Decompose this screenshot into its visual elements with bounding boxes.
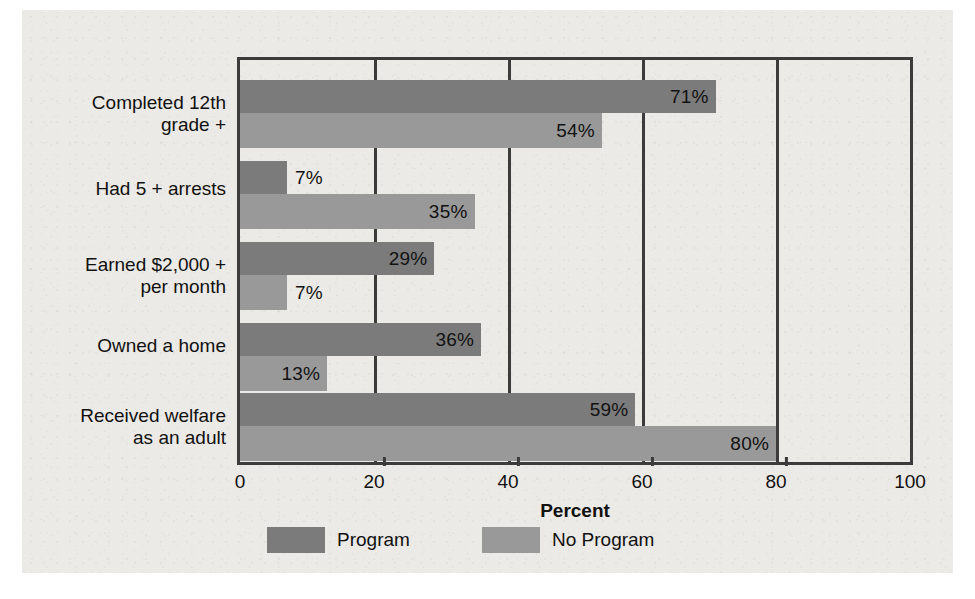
bar-value-label: 36% [436, 329, 475, 351]
xtick-40: 40 [497, 471, 518, 493]
gridline-80 [776, 60, 779, 462]
legend-label-program: Program [337, 529, 410, 551]
bar-program-3: 36% [240, 323, 481, 356]
xtick-100: 100 [894, 471, 926, 493]
chart-legend: Program No Program [237, 527, 913, 567]
category-label-1: Had 5 + arrests [0, 178, 226, 200]
tickmark [383, 457, 386, 466]
plot-area: Completed 12th grade + 71% 54% Had 5 + a… [237, 57, 913, 465]
bar-program-4: 59% [240, 393, 635, 426]
bar-noprogram-1: 35% [240, 194, 475, 229]
category-label-2: Earned $2,000 + per month [0, 254, 226, 298]
tickmark [517, 457, 520, 466]
xtick-80: 80 [765, 471, 786, 493]
x-axis-title: Percent [540, 500, 610, 522]
bar-value-label: 35% [429, 201, 468, 223]
legend-swatch-program [267, 527, 325, 553]
bar-program-2: 29% [240, 242, 434, 275]
legend-item-program: Program [267, 527, 410, 553]
bar-value-label: 54% [556, 120, 595, 142]
bar-value-label: 59% [590, 399, 629, 421]
bar-noprogram-3: 13% [240, 356, 327, 391]
legend-label-no-program: No Program [552, 529, 654, 551]
xtick-20: 20 [363, 471, 384, 493]
bar-noprogram-4: 80% [240, 426, 776, 461]
xtick-0: 0 [235, 471, 246, 493]
legend-swatch-no-program [482, 527, 540, 553]
tickmark [651, 457, 654, 466]
bar-noprogram-0: 54% [240, 113, 602, 148]
bar-value-label: 13% [281, 363, 320, 385]
bar-noprogram-2: 7% [240, 275, 287, 310]
bar-program-0: 71% [240, 80, 716, 113]
bar-value-label: 7% [295, 282, 323, 304]
tickmark [785, 457, 788, 466]
chart-figure: Completed 12th grade + 71% 54% Had 5 + a… [22, 10, 953, 573]
xtick-60: 60 [631, 471, 652, 493]
bar-value-label: 71% [670, 86, 709, 108]
gridline-60 [642, 60, 645, 462]
category-label-3: Owned a home [0, 335, 226, 357]
category-label-4: Received welfare as an adult [0, 405, 226, 449]
category-label-0: Completed 12th grade + [0, 92, 226, 136]
bar-value-label: 29% [389, 248, 428, 270]
bar-value-label: 80% [730, 433, 769, 455]
legend-item-no-program: No Program [482, 527, 654, 553]
bar-value-label: 7% [295, 167, 323, 189]
bar-program-1: 7% [240, 161, 287, 194]
